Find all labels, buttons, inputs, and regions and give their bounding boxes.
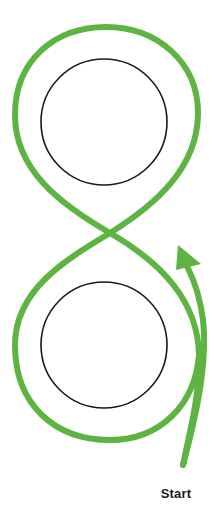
start-label: Start [154,486,198,501]
start-arrow-shaft [183,266,204,465]
figure-eight-diagram [0,0,214,518]
arrowhead-icon [176,245,201,270]
figure-eight-path [15,27,199,465]
upper-obstacle-circle [41,59,167,185]
lower-obstacle-circle [41,282,167,408]
